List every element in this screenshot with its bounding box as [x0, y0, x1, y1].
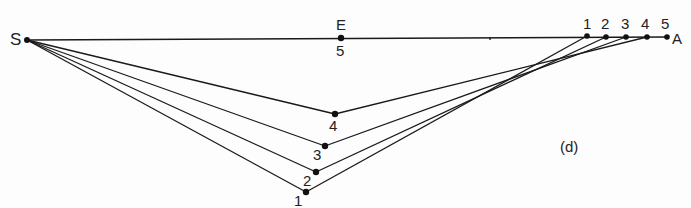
label-bottom-2: 2	[303, 172, 311, 189]
point-e	[338, 35, 344, 41]
point-top-3	[623, 34, 629, 40]
label-bottom-4: 4	[329, 117, 337, 134]
point-bottom-2	[313, 169, 319, 175]
point-top-1	[584, 33, 590, 39]
ray-path-diagram: S E 5 A 1 2 3 4 5 1 2 3 4 (d)	[0, 0, 691, 208]
label-s: S	[10, 30, 21, 49]
label-e-sub: 5	[336, 42, 344, 59]
label-top-2: 2	[601, 15, 609, 32]
label-bottom-3: 3	[313, 146, 321, 163]
ray-s-to-1	[27, 40, 306, 192]
point-bottom-1	[303, 189, 309, 195]
label-top-3: 3	[621, 15, 629, 32]
panel-label: (d)	[560, 138, 578, 155]
ray-s-to-3	[27, 40, 325, 146]
point-top-4	[644, 34, 650, 40]
label-a: A	[672, 30, 682, 47]
point-top-5	[664, 34, 670, 40]
point-s	[24, 37, 30, 43]
point-top-2	[603, 34, 609, 40]
baseline-s-a	[27, 37, 667, 40]
point-bottom-3	[322, 143, 328, 149]
label-top-1: 1	[583, 15, 591, 32]
label-bottom-1: 1	[294, 192, 302, 208]
label-top-4: 4	[641, 15, 649, 32]
ray-4-to-top4	[335, 37, 647, 114]
ray-s-to-2	[27, 40, 316, 172]
label-top-5: 5	[661, 15, 669, 32]
ray-1-to-top1	[306, 36, 587, 192]
ray-s-to-4	[27, 40, 335, 114]
label-e: E	[336, 16, 346, 33]
